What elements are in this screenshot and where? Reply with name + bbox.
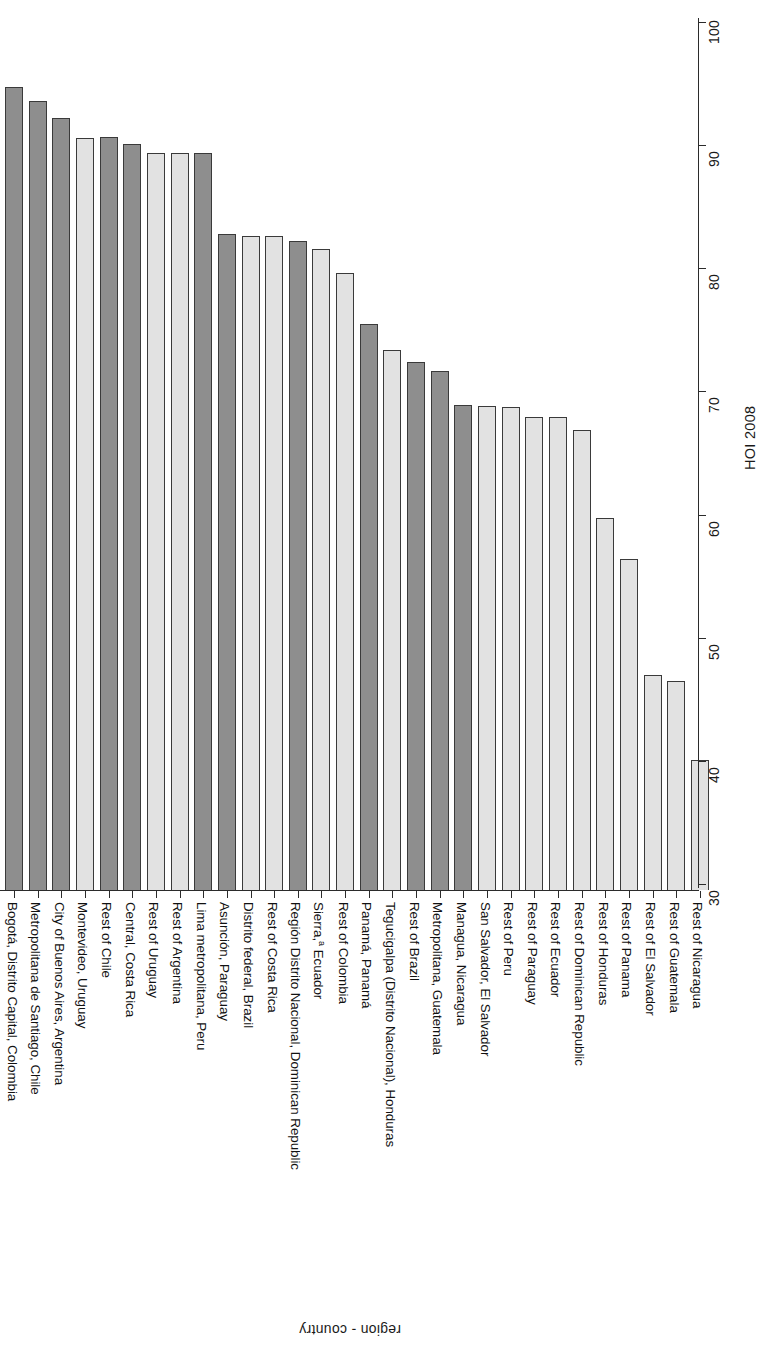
- bar: [265, 236, 283, 890]
- category-label: Bogotá, Distrito Capital, Colombia: [5, 902, 20, 1101]
- value-tick: [699, 761, 706, 762]
- category-tick: [38, 891, 39, 898]
- category-tick: [511, 891, 512, 898]
- category-label: City of Buenos Aires, Argentina: [52, 902, 67, 1085]
- bar: [573, 430, 591, 890]
- value-tick-label: 50: [706, 614, 722, 660]
- category-tick: [534, 891, 535, 898]
- value-tick: [699, 145, 706, 146]
- bar: [644, 675, 662, 890]
- bar: [76, 138, 94, 890]
- category-tick: [629, 891, 630, 898]
- category-label: Rest of El Salvador: [643, 902, 658, 1016]
- bar: [218, 234, 236, 890]
- category-tick: [203, 891, 204, 898]
- category-tick: [251, 891, 252, 898]
- category-tick: [416, 891, 417, 898]
- category-tick: [487, 891, 488, 898]
- category-label: Región Distrito Nacional, Dominican Repu…: [288, 902, 303, 1170]
- category-label: Montevideo, Uruguay: [75, 902, 90, 1028]
- value-tick: [699, 515, 706, 516]
- value-tick: [699, 391, 706, 392]
- category-tick: [369, 891, 370, 898]
- category-label: Rest of Dominican Republic: [572, 902, 587, 1066]
- category-label: Metropolitana de Santiago, Chile: [28, 902, 43, 1095]
- bar: [667, 681, 685, 890]
- category-tick: [132, 891, 133, 898]
- bar: [360, 324, 378, 890]
- bar: [29, 101, 47, 890]
- category-label: Metropolitana, Guatemala: [430, 902, 445, 1055]
- bar: [478, 406, 496, 890]
- category-label: Rest of Uruguay: [146, 902, 161, 998]
- category-tick: [109, 891, 110, 898]
- category-tick: [321, 891, 322, 898]
- category-tick: [392, 891, 393, 898]
- bar: [525, 417, 543, 890]
- category-label: Rest of Guatemala: [667, 902, 682, 1013]
- bar: [123, 144, 141, 890]
- category-tick: [274, 891, 275, 898]
- category-label: Sierra,a Ecuador: [310, 902, 326, 999]
- category-tick: [440, 891, 441, 898]
- value-tick-label: 90: [706, 121, 722, 167]
- category-tick: [582, 891, 583, 898]
- bar: [407, 362, 425, 890]
- category-label: Rest of Chile: [99, 902, 114, 978]
- category-label: Rest of Honduras: [596, 902, 611, 1005]
- plot-area: [0, 0, 700, 890]
- category-tick: [653, 891, 654, 898]
- bar: [502, 407, 520, 890]
- category-tick: [156, 891, 157, 898]
- value-tick-label: 70: [706, 367, 722, 413]
- category-label: Asunción, Paraguay: [217, 902, 232, 1021]
- category-label: Rest of Nicaragua: [690, 902, 705, 1008]
- value-axis-line: [698, 18, 699, 888]
- category-tick: [463, 891, 464, 898]
- category-tick: [558, 891, 559, 898]
- value-tick-label: 30: [706, 860, 722, 906]
- bar: [454, 405, 472, 890]
- category-tick: [61, 891, 62, 898]
- category-label: Distrito federal, Brazil: [241, 902, 256, 1028]
- category-label: Rest of Paraguay: [525, 902, 540, 1005]
- category-label: Lima metropolitana, Peru: [194, 902, 209, 1050]
- category-tick: [605, 891, 606, 898]
- category-label: Rest of Argentina: [170, 902, 185, 1004]
- bar: [383, 350, 401, 890]
- value-tick: [699, 268, 706, 269]
- bar: [5, 87, 23, 890]
- category-label: Managua, Nicaragua: [454, 902, 469, 1025]
- value-tick-label: 100: [706, 0, 722, 44]
- category-tick: [345, 891, 346, 898]
- bar: [336, 273, 354, 890]
- category-label: Rest of Ecuador: [548, 902, 563, 997]
- bar: [620, 559, 638, 890]
- value-tick: [699, 884, 706, 885]
- chart-figure: 30405060708090100 HOI 2008 Bogotá, Distr…: [0, 0, 759, 1361]
- category-tick: [676, 891, 677, 898]
- bar: [312, 249, 330, 890]
- category-label: San Salvador, El Salvador: [478, 902, 493, 1056]
- value-tick-label: 40: [706, 737, 722, 783]
- bar: [431, 371, 449, 891]
- value-tick-label: 80: [706, 244, 722, 290]
- bar: [100, 137, 118, 890]
- category-label: Rest of Panama: [619, 902, 634, 997]
- value-tick-label: 60: [706, 491, 722, 537]
- category-label: Panamá, Panamá: [359, 902, 374, 1009]
- bar: [596, 518, 614, 890]
- category-tick: [227, 891, 228, 898]
- value-tick: [699, 22, 706, 23]
- category-label: Rest of Costa Rica: [265, 902, 280, 1013]
- category-axis-title: region - country: [0, 1322, 700, 1338]
- category-tick: [298, 891, 299, 898]
- category-tick: [700, 891, 701, 898]
- bar: [147, 153, 165, 890]
- category-tick: [14, 891, 15, 898]
- bar: [171, 153, 189, 890]
- bar: [242, 236, 260, 890]
- category-label: Rest of Colombia: [336, 902, 351, 1004]
- bar: [194, 153, 212, 890]
- category-label: Rest of Peru: [501, 902, 516, 976]
